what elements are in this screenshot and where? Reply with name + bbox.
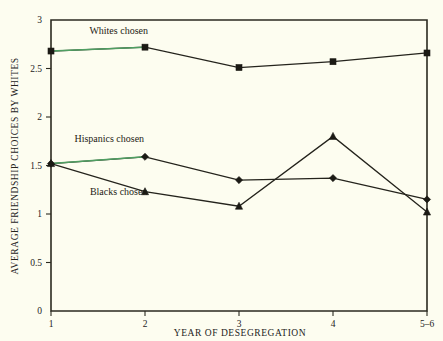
annotation-whites-chosen: Whites chosen bbox=[89, 25, 148, 36]
chart-figure: 00.511.522.53 12345–6 Whites chosenHispa… bbox=[0, 0, 443, 341]
marker-whites-chosen-2 bbox=[142, 44, 148, 50]
x-tick-label: 4 bbox=[331, 319, 336, 329]
marker-whites-chosen-1 bbox=[48, 48, 54, 54]
y-tick-label: 1.5 bbox=[30, 161, 42, 171]
x-tick-label: 1 bbox=[49, 319, 54, 329]
x-tick-label: 5–6 bbox=[420, 319, 435, 329]
x-axis-title: YEAR OF DESEGREGATION bbox=[174, 328, 306, 338]
marker-whites-chosen-4 bbox=[330, 59, 336, 65]
annotation-blacks-chosen: Blacks chosen bbox=[90, 186, 148, 197]
x-tick-label: 2 bbox=[143, 319, 148, 329]
annotation-hispanics-chosen: Hispanics chosen bbox=[74, 133, 144, 144]
marker-whites-chosen-3 bbox=[236, 65, 242, 71]
y-tick-label: 2 bbox=[37, 112, 42, 122]
y-tick-label: 2.5 bbox=[30, 64, 42, 74]
y-tick-label: 3 bbox=[37, 15, 42, 25]
line-chart: 00.511.522.53 12345–6 Whites chosenHispa… bbox=[0, 0, 443, 341]
y-axis-title: AVERAGE FRIENDSHIP CHOICES BY WHITES bbox=[10, 57, 20, 274]
y-tick-label: 1 bbox=[37, 209, 42, 219]
y-tick-label: 0 bbox=[37, 306, 42, 316]
marker-whites-chosen-5 bbox=[424, 50, 430, 56]
plot-background bbox=[0, 0, 443, 341]
y-tick-label: 0.5 bbox=[30, 258, 42, 268]
